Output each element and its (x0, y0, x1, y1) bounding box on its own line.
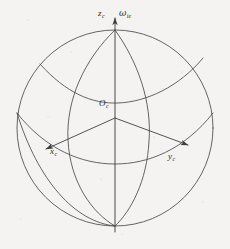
axis-label-y: yc (168, 152, 175, 161)
sphere-diagram-canvas (0, 0, 230, 249)
origin-label: Oc (99, 99, 108, 108)
parallel-lower (17, 113, 115, 226)
figure-sphere-coordinate-frame: zc ωie Oc xc yc (0, 0, 230, 249)
meridian-front (115, 30, 149, 226)
meridian-left (68, 30, 115, 226)
axis-y-line (115, 118, 188, 145)
axis-label-x: xc (50, 147, 57, 156)
axis-label-omega-ie: ωie (119, 9, 131, 18)
axis-label-z: zc (98, 9, 104, 18)
parallel-upper (40, 58, 203, 103)
axis-x-line (46, 118, 115, 149)
